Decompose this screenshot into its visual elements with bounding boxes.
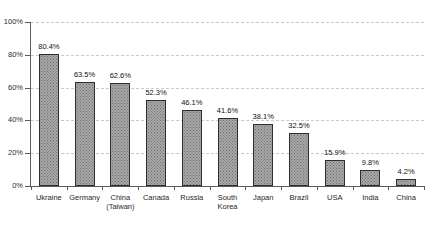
y-axis-tick-label: 40% bbox=[0, 117, 23, 125]
x-axis-tick bbox=[138, 186, 139, 190]
y-axis-tick bbox=[25, 55, 30, 56]
y-axis-tick bbox=[25, 88, 30, 89]
bar bbox=[396, 179, 416, 186]
bar bbox=[182, 110, 202, 186]
bar-value-label: 32.5% bbox=[288, 122, 309, 130]
x-axis-tick bbox=[424, 186, 425, 190]
x-axis-tick bbox=[174, 186, 175, 190]
x-axis-category-label: Ukraine bbox=[36, 193, 62, 202]
bar-value-label: 15.9% bbox=[324, 149, 345, 157]
y-axis-tick bbox=[25, 120, 30, 121]
bar bbox=[360, 170, 380, 186]
x-axis-category-label: Japan bbox=[253, 193, 273, 202]
x-axis-tick bbox=[353, 186, 354, 190]
bar-value-label: 46.1% bbox=[181, 99, 202, 107]
x-axis-category-label: India bbox=[362, 193, 378, 202]
x-axis-category-label: Canada bbox=[143, 193, 169, 202]
bar-value-label: 38.1% bbox=[253, 113, 274, 121]
bar bbox=[146, 100, 166, 186]
x-axis-category-label: Germany bbox=[69, 193, 100, 202]
bar bbox=[253, 124, 273, 186]
x-axis-category-label: USA bbox=[327, 193, 342, 202]
y-axis-tick bbox=[25, 153, 30, 154]
bar bbox=[75, 82, 95, 186]
x-axis-tick bbox=[281, 186, 282, 190]
x-axis-category-label: China (Taiwan) bbox=[106, 193, 134, 211]
y-axis-tick-label: 80% bbox=[0, 51, 23, 59]
bar-value-label: 63.5% bbox=[74, 71, 95, 79]
bar-value-label: 41.6% bbox=[217, 107, 238, 115]
x-axis-tick bbox=[245, 186, 246, 190]
bar-chart: 0%20%40%60%80%100% 80.4%63.5%62.6%52.3%4… bbox=[0, 0, 439, 229]
bar bbox=[289, 133, 309, 186]
x-axis-category-label: Brazil bbox=[290, 193, 309, 202]
x-axis-tick bbox=[210, 186, 211, 190]
bar-value-label: 4.2% bbox=[398, 168, 415, 176]
bar bbox=[39, 54, 59, 186]
x-axis-line bbox=[30, 186, 424, 187]
bar bbox=[110, 83, 130, 186]
y-axis-tick-label: 20% bbox=[0, 149, 23, 157]
x-axis-tick bbox=[317, 186, 318, 190]
x-axis-tick bbox=[31, 186, 32, 190]
x-axis-tick bbox=[102, 186, 103, 190]
bar-value-label: 80.4% bbox=[38, 43, 59, 51]
bar bbox=[325, 160, 345, 186]
bar-value-label: 52.3% bbox=[145, 89, 166, 97]
x-axis-tick bbox=[388, 186, 389, 190]
y-axis-tick-label: 60% bbox=[0, 84, 23, 92]
bar-value-label: 9.8% bbox=[362, 159, 379, 167]
x-axis-category-label: China bbox=[396, 193, 416, 202]
bar bbox=[218, 118, 238, 186]
y-axis-tick-label: 0% bbox=[0, 182, 23, 190]
x-axis-category-label: South Korea bbox=[217, 193, 237, 211]
x-axis-tick bbox=[67, 186, 68, 190]
x-axis-category-label: Russia bbox=[180, 193, 203, 202]
y-axis-tick bbox=[25, 22, 30, 23]
bar-value-label: 62.6% bbox=[110, 72, 131, 80]
y-axis-tick-label: 100% bbox=[0, 18, 23, 26]
